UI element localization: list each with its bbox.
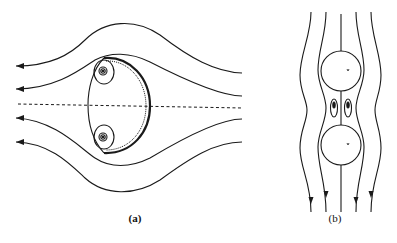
gap-eddy-left [331, 99, 338, 117]
symmetry-axis [18, 104, 243, 108]
streamline-a-4 [16, 142, 242, 192]
wake-vortex-top [94, 60, 114, 84]
arrow-icon [16, 63, 24, 69]
bubble-cap [104, 58, 150, 153]
arrow-icon [324, 191, 329, 198]
arrow-icon [16, 115, 24, 121]
sphere-top [321, 51, 361, 91]
wake-vortex-bottom [94, 125, 114, 149]
streamline-a-3 [16, 118, 242, 166]
streamline-a-2 [16, 54, 242, 96]
streamline-a-1 [16, 24, 242, 73]
streamline-b-inner-right [356, 12, 364, 212]
arrow-icon [309, 197, 314, 204]
streamline-b-outer-left [300, 12, 311, 212]
panel-b [300, 12, 381, 212]
sphere-bottom [321, 125, 361, 165]
streamline-b-inner-left [318, 12, 326, 212]
gap-eddy-right [345, 99, 352, 117]
panel-a [16, 24, 243, 192]
panel-a-caption: (a) [110, 212, 160, 224]
arrow-icon [16, 86, 24, 92]
arrow-icon [354, 197, 359, 204]
streamline-b-outer-right [371, 12, 381, 212]
arrow-icon [16, 139, 24, 145]
figure-canvas [0, 0, 397, 243]
panel-b-caption: (b) [310, 212, 360, 224]
